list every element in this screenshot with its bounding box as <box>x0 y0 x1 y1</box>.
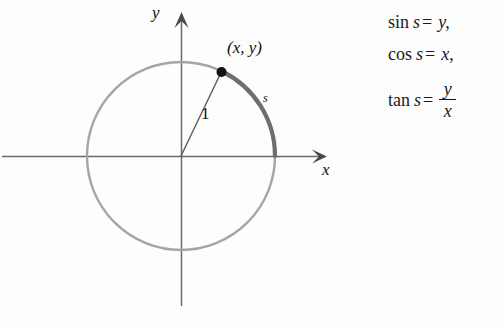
equation-cos-argument: s <box>416 44 423 65</box>
equation-cos: cos s = x, <box>388 38 502 70</box>
trig-definitions-list: sin s = y, cos s = x, tan s = y x <box>388 6 502 126</box>
radius-length-label: 1 <box>201 105 210 122</box>
arc-length-label: s <box>263 92 268 104</box>
point-coordinates-label: (x, y) <box>227 39 262 56</box>
equation-tan-argument: s <box>414 90 421 111</box>
equation-sin-equals: = <box>422 12 432 33</box>
equation-cos-function: cos <box>388 44 412 65</box>
y-axis-label: y <box>152 4 160 21</box>
equation-tan-function: tan <box>388 90 410 111</box>
equation-tan-fraction: y x <box>439 80 456 120</box>
equation-tan-equals: = <box>423 90 433 111</box>
equation-cos-equals: = <box>425 44 435 65</box>
x-axis-label: x <box>322 161 330 178</box>
x-axis <box>2 150 327 164</box>
equation-cos-result: x, <box>441 44 454 65</box>
equation-sin-result: y, <box>438 12 450 33</box>
y-axis <box>175 12 189 306</box>
figure-page: y x (x, y) 1 s sin s = y, cos s = x, tan… <box>0 0 502 326</box>
equation-sin-argument: s <box>413 12 420 33</box>
equation-tan: tan s = y x <box>388 74 502 126</box>
point-marker <box>217 67 227 77</box>
equation-sin: sin s = y, <box>388 6 502 38</box>
arc-s <box>222 72 275 157</box>
equation-sin-function: sin <box>388 12 409 33</box>
equation-tan-denominator: x <box>441 100 455 120</box>
equation-tan-numerator: y <box>441 80 455 99</box>
